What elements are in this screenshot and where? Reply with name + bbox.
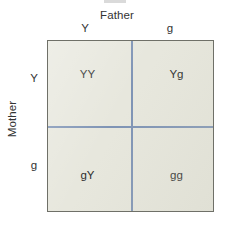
mother-axis-title: Mother: [6, 83, 18, 155]
scan-artifact: [104, 0, 126, 3]
father-allele-header-2: g: [156, 22, 184, 34]
punnett-cell-bottom-right: gg: [132, 128, 215, 213]
genotype-label: gY: [80, 169, 94, 181]
punnett-cell-top-left: YY: [48, 41, 131, 126]
genotype-label: gg: [170, 169, 183, 181]
father-allele-header-1: Y: [71, 22, 99, 34]
father-axis-title: Father: [0, 9, 234, 21]
punnett-cell-bottom-left: gY: [48, 128, 131, 213]
genotype-label: Yg: [169, 68, 183, 80]
punnett-cell-top-right: Yg: [132, 41, 215, 126]
punnett-square-figure: Father Mother Y g Y g YY Yg gY gg: [0, 0, 234, 228]
mother-allele-header-1: Y: [24, 72, 44, 84]
punnett-grid: YY Yg gY gg: [47, 40, 214, 212]
mother-allele-header-2: g: [24, 159, 44, 171]
genotype-label: YY: [80, 68, 95, 80]
